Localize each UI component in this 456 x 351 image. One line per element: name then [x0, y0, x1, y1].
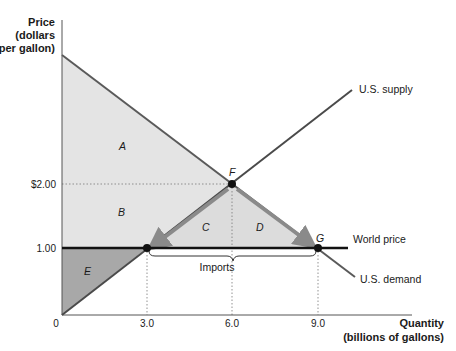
demand-label: U.S. demand	[360, 273, 421, 285]
imports-bracket	[149, 251, 316, 261]
imports-label: Imports	[199, 261, 234, 273]
point-g	[314, 244, 322, 252]
y-tick-1: 1.00	[37, 243, 57, 254]
point-domestic-supply	[143, 244, 151, 252]
x-tick-0: 0	[53, 318, 59, 329]
supply-label: U.S. supply	[359, 83, 413, 95]
x-tick-3: 3.0	[140, 318, 154, 329]
area-c-label: C	[202, 221, 210, 233]
y-axis-title-line3: per gallon)	[0, 42, 55, 54]
x-tick-6: 6.0	[225, 318, 239, 329]
chart-canvas: Price (dollars per gallon) $2.00 1.00 0 …	[0, 0, 456, 351]
y-tick-2: $2.00	[31, 179, 56, 190]
world-price-label: World price	[353, 233, 406, 245]
x-tick-9: 9.0	[311, 318, 325, 329]
y-axis-title-line2: (dollars	[15, 29, 55, 41]
y-axis-title-line1: Price	[28, 16, 55, 28]
point-f-label: F	[229, 166, 236, 178]
point-f	[228, 180, 236, 188]
area-e-label: E	[84, 265, 92, 277]
area-a-label: A	[118, 140, 126, 152]
area-d-label: D	[256, 221, 264, 233]
x-axis-title-line2: (billions of gallons)	[343, 331, 444, 343]
x-axis-title-line1: Quantity	[399, 317, 444, 329]
area-b-label: B	[118, 206, 125, 218]
point-g-label: G	[316, 232, 324, 244]
